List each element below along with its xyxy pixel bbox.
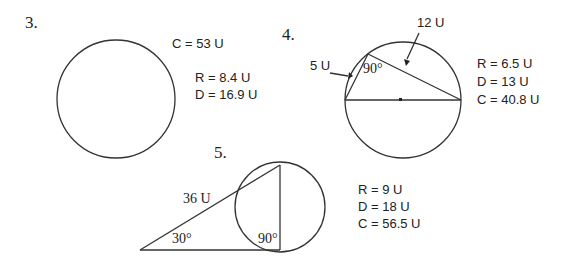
problem-5-radius: R = 9 U [358, 182, 402, 197]
center-dot-icon [399, 98, 402, 101]
problem-3-radius: R = 8.4 U [195, 70, 250, 85]
geometry-worksheet: 3. C = 53 U R = 8.4 U D = 16.9 U 4. 90° … [0, 0, 565, 271]
problem-4-circumference: C = 40.8 U [477, 92, 540, 107]
diagram-canvas: 3. C = 53 U R = 8.4 U D = 16.9 U 4. 90° … [0, 0, 565, 271]
arrow-icon [330, 73, 348, 76]
problem-4-number: 4. [282, 25, 295, 44]
problem-4-long-label: 12 U [417, 15, 444, 30]
problem-5-angle-right: 90° [258, 231, 278, 246]
problem-5-angle-left: 30° [172, 231, 192, 246]
problem-4-short-label: 5 U [310, 58, 330, 73]
arrow-icon [407, 33, 419, 59]
problem-4-angle: 90° [363, 61, 383, 76]
problem-3-circumference: C = 53 U [172, 36, 224, 51]
problem-5-number: 5. [214, 143, 227, 162]
problem-3-diameter: D = 16.9 U [195, 87, 258, 102]
problem-5-diameter: D = 18 U [358, 199, 410, 214]
problem-5-side-label: 36 U [183, 191, 211, 206]
problem-3-number: 3. [25, 13, 38, 32]
arrowhead-icon [404, 59, 410, 66]
problem-3-circle [57, 40, 175, 158]
problem-5: 5. 36 U 30° 90° R = 9 U D = 18 U C = 56.… [140, 143, 421, 252]
problem-5-circumference: C = 56.5 U [358, 216, 421, 231]
problem-3: 3. C = 53 U R = 8.4 U D = 16.9 U [25, 13, 258, 158]
problem-4: 4. 90° 5 U 12 U R = 6.5 U D = 13 U C = 4… [282, 15, 540, 158]
problem-4-radius: R = 6.5 U [477, 56, 532, 71]
problem-4-diameter: D = 13 U [477, 74, 529, 89]
